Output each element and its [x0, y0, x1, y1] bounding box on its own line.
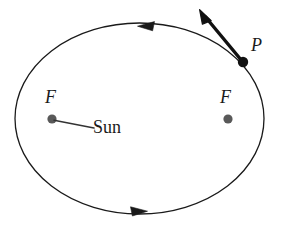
sun-label: Sun [93, 118, 121, 136]
focus-right-dot [223, 114, 232, 123]
focus-left-label: F [45, 88, 56, 106]
point-p-label: P [251, 36, 262, 54]
velocity-vector-arrow-icon [200, 10, 242, 61]
orbit-diagram: F F P Sun [0, 0, 286, 234]
orbit-diagram-canvas [0, 0, 286, 234]
focus-left-dot [47, 114, 56, 123]
point-p-dot [238, 57, 248, 67]
sun-leader-line [54, 120, 94, 128]
focus-right-label: F [220, 88, 231, 106]
